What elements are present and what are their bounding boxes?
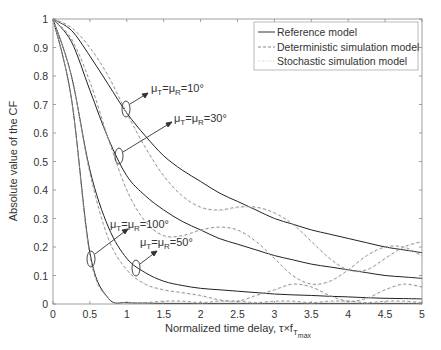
annotation-ellipse-50deg bbox=[132, 260, 140, 276]
annotation-label-100deg: μT=μR=100° bbox=[110, 218, 169, 233]
x-tick-label: 4 bbox=[345, 308, 351, 320]
x-tick-label: 1.5 bbox=[156, 308, 171, 320]
x-tick-label: 0.5 bbox=[83, 308, 98, 320]
legend-label-deterministic: Deterministic simulation model bbox=[277, 41, 419, 53]
y-tick-label: 1 bbox=[42, 13, 48, 25]
chart-svg: 00.511.522.533.544.55 00.10.20.30.40.50.… bbox=[0, 0, 441, 350]
y-tick-label: 0.3 bbox=[33, 213, 48, 225]
x-tick-label: 2.5 bbox=[230, 308, 245, 320]
x-axis-label: Normalized time delay, τ×fTmax bbox=[165, 322, 312, 339]
y-tick-label: 0.4 bbox=[33, 184, 48, 196]
cf-chart: 00.511.522.533.544.55 00.10.20.30.40.50.… bbox=[0, 0, 441, 350]
x-tick-label: 5 bbox=[419, 308, 425, 320]
x-tick-label: 2 bbox=[198, 308, 204, 320]
y-tick-label: 0.9 bbox=[33, 42, 48, 54]
legend-label-stochastic: Stochastic simulation model bbox=[277, 55, 407, 67]
y-axis-label: Absolute value of the CF bbox=[7, 100, 19, 221]
x-tick-label: 4.5 bbox=[378, 308, 393, 320]
x-tick-label: 0 bbox=[50, 308, 56, 320]
y-tick-label: 0.6 bbox=[33, 127, 48, 139]
legend: Reference model Deterministic simulation… bbox=[254, 22, 419, 70]
annotation-label-30deg: μT=μR=30° bbox=[174, 112, 227, 127]
x-tick-label: 3.5 bbox=[304, 308, 319, 320]
legend-label-reference: Reference model bbox=[277, 26, 357, 38]
y-tick-label: 0.1 bbox=[33, 270, 48, 282]
y-tick-label: 0 bbox=[42, 298, 48, 310]
annotation-label-50deg: μT=μR=50° bbox=[140, 236, 193, 251]
y-tick-label: 0.8 bbox=[33, 70, 48, 82]
annotation-ellipse-10deg bbox=[122, 101, 130, 117]
y-tick-label: 0.5 bbox=[33, 156, 48, 168]
annotation-label-10deg: μT=μR=10° bbox=[151, 82, 204, 97]
x-tick-label: 3 bbox=[271, 308, 277, 320]
x-tick-label: 1 bbox=[124, 308, 130, 320]
annotation-labels: μT=μR=10° μT=μR=30° μT=μR=100° μT=μR=50° bbox=[110, 82, 227, 251]
y-tick-label: 0.2 bbox=[33, 241, 48, 253]
annotations bbox=[87, 93, 172, 276]
y-tick-label: 0.7 bbox=[33, 99, 48, 111]
